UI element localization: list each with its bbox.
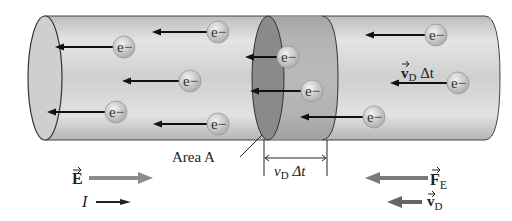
label-vd-dt: vD Δt [274, 163, 306, 181]
current-arrow: I [81, 193, 131, 210]
volume-slab [252, 16, 338, 140]
drift-velocity-arrow: vD [387, 191, 443, 212]
label-area: Area A [172, 149, 215, 165]
svg-text:e−: e− [367, 109, 382, 125]
diagram: e−e−e−e−e−e−e−e−e−e− vD Δt Area A vD Δt … [0, 0, 512, 221]
svg-text:e−: e− [305, 83, 320, 99]
svg-text:e−: e− [117, 39, 132, 55]
svg-text:e−: e− [109, 104, 124, 120]
svg-text:vD: vD [427, 193, 443, 212]
svg-text:e−: e− [281, 49, 296, 65]
svg-text:E: E [72, 170, 83, 187]
electric-field-arrow: E [72, 167, 153, 187]
svg-text:I: I [81, 193, 88, 210]
label-vd-dt-arrow: vD Δt [401, 65, 435, 83]
cross-section-area [252, 16, 284, 140]
svg-text:e−: e− [429, 27, 444, 43]
svg-text:e−: e− [211, 24, 226, 40]
svg-text:e−: e− [211, 116, 226, 132]
force-arrow: FE [365, 167, 447, 192]
svg-text:e−: e− [183, 73, 198, 89]
svg-text:e−: e− [451, 75, 466, 91]
svg-text:FE: FE [430, 171, 447, 192]
